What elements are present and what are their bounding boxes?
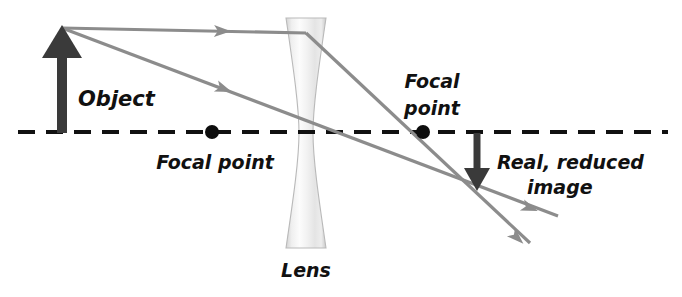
ray-arrowheads	[214, 25, 540, 248]
focal-point-label-left: Focal point	[156, 151, 274, 173]
focal-point-dot-right	[416, 125, 430, 139]
lens-label: Lens	[281, 259, 331, 281]
object-arrowhead	[42, 25, 82, 58]
image-label-line2: image	[527, 176, 593, 198]
focal-point-label-right-line1: Focal	[404, 70, 460, 92]
object-label: Object	[78, 87, 156, 111]
ray-diagram-canvas: Object Focal point Focal point Real, red…	[0, 0, 682, 297]
object-arrow	[42, 25, 82, 133]
arrowhead-center-incident	[214, 80, 234, 97]
optics-diagram-svg: Object Focal point Focal point Real, red…	[0, 0, 682, 297]
ray-parallel-refracted	[306, 33, 530, 243]
image-label-line1: Real, reduced	[497, 151, 644, 173]
focal-point-dot-left	[205, 125, 219, 139]
focal-point-label-right-line2: point	[403, 97, 461, 119]
ray-parallel-incident	[62, 28, 306, 33]
